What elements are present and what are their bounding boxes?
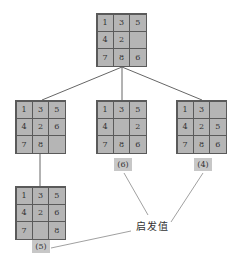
- tile: 2: [113, 31, 130, 49]
- tile-blank: [32, 221, 49, 239]
- tile: 3: [193, 101, 210, 119]
- tile: 7: [97, 135, 114, 153]
- tile: 6: [209, 135, 226, 153]
- heuristic-annotation: 启发值: [136, 218, 169, 233]
- tile: 4: [16, 204, 33, 222]
- tile: 4: [97, 31, 114, 49]
- tile: 5: [209, 118, 226, 136]
- tile: 8: [113, 48, 130, 66]
- pointer-label-6: [124, 173, 148, 215]
- tile: 4: [16, 118, 33, 136]
- tile: 1: [16, 101, 33, 119]
- tile: 1: [97, 101, 114, 119]
- tile-blank: [48, 135, 65, 153]
- tile: 7: [97, 48, 114, 66]
- root-board: 13542786: [96, 13, 147, 67]
- tile: 3: [113, 14, 130, 32]
- child-left-board: 13542678: [15, 100, 66, 154]
- tile: 7: [16, 135, 33, 153]
- tile: 2: [129, 118, 146, 136]
- tile: 7: [16, 221, 33, 239]
- edge-root-to-left: [42, 67, 122, 100]
- child-middle-board: 13542786: [96, 100, 147, 154]
- heuristic-label-middle: (6): [114, 158, 132, 171]
- tile: 1: [97, 14, 114, 32]
- tile: 3: [32, 187, 49, 205]
- heuristic-label-right: (4): [194, 158, 212, 171]
- tile: 8: [113, 135, 130, 153]
- tile: 4: [97, 118, 114, 136]
- tile: 4: [177, 118, 194, 136]
- tile: 5: [129, 14, 146, 32]
- tile: 8: [193, 135, 210, 153]
- tile: 2: [193, 118, 210, 136]
- tile: 5: [129, 101, 146, 119]
- tile: 8: [32, 135, 49, 153]
- tile: 2: [32, 204, 49, 222]
- tile: 6: [129, 135, 146, 153]
- tile: 6: [48, 204, 65, 222]
- tile: 2: [32, 118, 49, 136]
- tile: 1: [16, 187, 33, 205]
- edge-root-to-right: [122, 67, 202, 100]
- tile: 1: [177, 101, 194, 119]
- tile: 5: [48, 187, 65, 205]
- tile-blank: [129, 31, 146, 49]
- tile: 6: [48, 118, 65, 136]
- tile: 3: [32, 101, 49, 119]
- tile-blank: [209, 101, 226, 119]
- tile: 8: [48, 221, 65, 239]
- tile: 3: [113, 101, 130, 119]
- tile-blank: [113, 118, 130, 136]
- tile: 7: [177, 135, 194, 153]
- tile: 5: [48, 101, 65, 119]
- grandchild-left-board: 13542678: [15, 186, 66, 240]
- tile: 6: [129, 48, 146, 66]
- heuristic-label-grandchild: (5): [32, 240, 50, 253]
- child-right-board: 13425786: [176, 100, 227, 154]
- pointer-label-4: [171, 173, 203, 222]
